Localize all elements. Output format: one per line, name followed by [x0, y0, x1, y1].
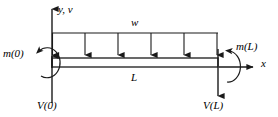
y-axis-label: y, v — [58, 4, 73, 15]
shear-left-label: V(0) — [37, 100, 57, 111]
shear-right-label: V(L) — [203, 100, 223, 111]
beam-free-body-diagram: y, v x w L m(0) m(L) V(0) V(L) — [0, 0, 278, 117]
distributed-load-label: w — [131, 17, 138, 28]
beam-body — [52, 58, 218, 67]
moment-right-label: m(L) — [236, 41, 257, 52]
x-axis-label: x — [261, 58, 266, 69]
moment-left-arc — [39, 48, 60, 78]
moment-left-label: m(0) — [3, 48, 24, 59]
beam-length-label: L — [131, 72, 137, 83]
